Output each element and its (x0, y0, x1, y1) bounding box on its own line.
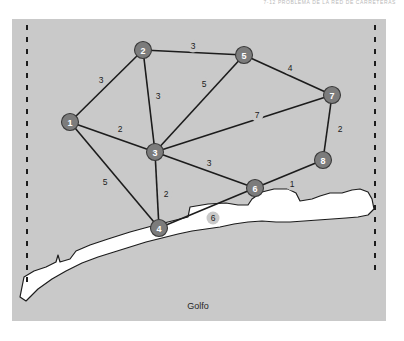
graph-node-label-5: 5 (241, 51, 246, 61)
coastline-group (20, 189, 374, 301)
map-panel: Golfo 3253352376412 12345678 (12, 19, 386, 321)
graph-node-label-8: 8 (320, 156, 325, 166)
graph-edge-1-2 (70, 50, 143, 122)
edge-weight-3-7: 7 (255, 110, 260, 120)
graph-node-label-3: 3 (152, 148, 157, 158)
graph-node-label-7: 7 (329, 91, 334, 101)
figure-caption: 7-12 PROBLEMA DE LA RED DE CARRETERAS (263, 0, 396, 5)
graph-edge-3-6 (155, 152, 255, 188)
edge-weight-1-3: 2 (118, 124, 123, 134)
gulf-label: Golfo (187, 301, 209, 311)
graph-node-label-6: 6 (252, 184, 257, 194)
edge-weight-1-4: 5 (103, 177, 108, 187)
graph-node-label-4: 4 (156, 224, 161, 234)
graph-edge-2-3 (143, 50, 155, 152)
edge-weight-3-4: 2 (164, 189, 169, 199)
edge-weight-4-6: 6 (211, 213, 216, 223)
network-graph-svg: Golfo 3253352376412 12345678 (12, 19, 386, 321)
edge-weight-2-3: 3 (156, 91, 161, 101)
edge-weight-3-5: 5 (202, 79, 207, 89)
graph-node-label-1: 1 (67, 118, 72, 128)
coastline-water-band (20, 189, 374, 301)
edge-weight-5-7: 4 (288, 63, 293, 73)
edge-weight-2-5: 3 (191, 41, 196, 51)
graph-edge-5-7 (244, 55, 332, 95)
edge-weight-6-8: 1 (290, 179, 295, 189)
graph-node-label-2: 2 (140, 46, 145, 56)
edge-weight-1-2: 3 (99, 75, 104, 85)
edge-weight-7-8: 2 (338, 124, 343, 134)
graph-edge-7-8 (323, 95, 332, 160)
edge-weight-3-6: 3 (207, 158, 212, 168)
graph-edge-3-4 (155, 152, 159, 228)
